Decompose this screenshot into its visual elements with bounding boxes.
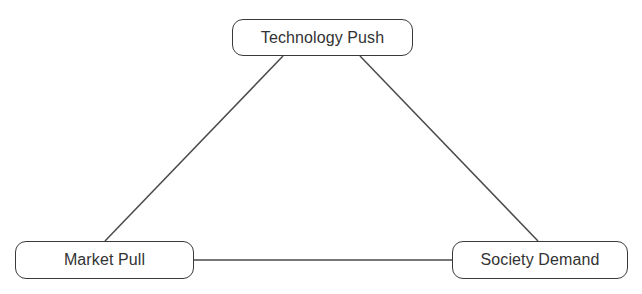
edge-technology-to-market [105, 56, 283, 241]
edge-technology-to-society [360, 56, 538, 241]
node-society-demand: Society Demand [452, 241, 628, 279]
diagram-canvas: Technology Push Market Pull Society Dema… [0, 0, 642, 294]
node-market-pull: Market Pull [15, 241, 194, 279]
node-label: Society Demand [481, 251, 600, 269]
node-label: Market Pull [64, 251, 145, 269]
node-technology-push: Technology Push [232, 19, 413, 56]
node-label: Technology Push [261, 29, 384, 47]
